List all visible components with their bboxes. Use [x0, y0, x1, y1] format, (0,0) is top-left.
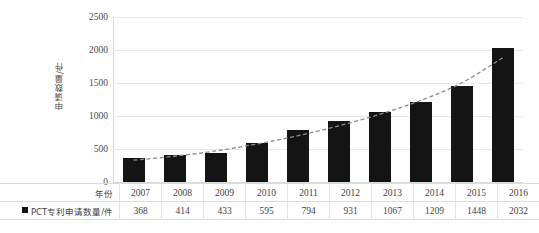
bar [328, 121, 350, 182]
table-cell-value: 368 [120, 202, 162, 220]
plot-region: 申请数量/件 25002000150010005000 [0, 0, 535, 183]
legend-swatch-icon [22, 207, 28, 213]
bar [205, 153, 227, 182]
y-axis-title: 申请数量/件 [56, 62, 70, 110]
bar [410, 102, 432, 182]
table-cell-year: 2009 [204, 184, 246, 202]
table-cell-year: 2013 [372, 184, 414, 202]
y-axis-tick: 1000 [72, 111, 108, 121]
table-cell-year: 2012 [330, 184, 372, 202]
bar [164, 155, 186, 182]
table-cell-year: 2008 [162, 184, 204, 202]
table-cell-year: 2011 [288, 184, 330, 202]
table-cell-value: 794 [288, 202, 330, 220]
data-table: 年份 2007200820092010201120122013201420152… [0, 183, 535, 233]
table-cell-value: 414 [162, 202, 204, 220]
table-cell-year: 2014 [414, 184, 456, 202]
bar [451, 86, 473, 182]
y-axis-tick: 2500 [72, 12, 108, 22]
table-row-values: PCT专利申请数量/件 3684144335957949311067120914… [0, 202, 539, 220]
bar [492, 48, 514, 182]
table-cell-year: 2015 [456, 184, 498, 202]
table-cell-year: 2007 [120, 184, 162, 202]
table-cell-value: 2032 [498, 202, 539, 220]
table-cell-value: 1209 [414, 202, 456, 220]
row-label-year: 年份 [0, 184, 120, 202]
bar [123, 158, 145, 182]
table-row-years: 年份 2007200820092010201120122013201420152… [0, 184, 539, 202]
table-cell-value: 595 [246, 202, 288, 220]
bar [246, 143, 268, 182]
row-label-series: PCT专利申请数量/件 [0, 202, 120, 220]
table-cell-value: 931 [330, 202, 372, 220]
table-cell-year: 2016 [498, 184, 539, 202]
table-cell-year: 2010 [246, 184, 288, 202]
y-axis-tick: 2000 [72, 45, 108, 55]
row-label-series-text: PCT专利申请数量/件 [31, 207, 113, 217]
bar [369, 112, 391, 182]
y-axis-tick-labels: 25002000150010005000 [72, 0, 108, 183]
y-axis-tick: 1500 [72, 78, 108, 88]
chart-data-table: 年份 2007200820092010201120122013201420152… [0, 183, 539, 220]
bar [287, 130, 309, 182]
table-cell-value: 1448 [456, 202, 498, 220]
bar-series [113, 0, 523, 183]
y-axis-tick: 500 [72, 144, 108, 154]
table-cell-value: 433 [204, 202, 246, 220]
table-cell-value: 1067 [372, 202, 414, 220]
